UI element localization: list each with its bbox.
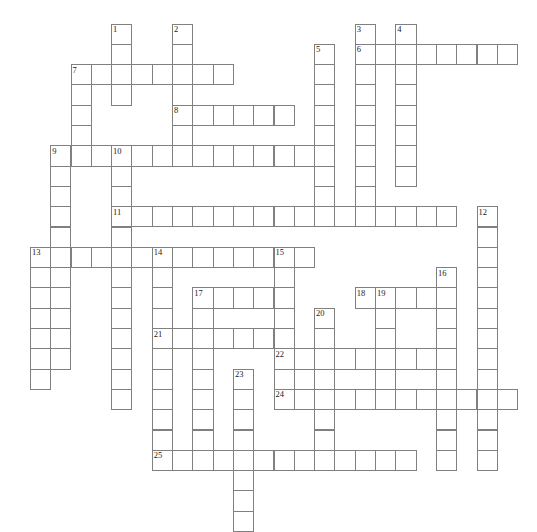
crossword-cell[interactable] [111, 389, 132, 410]
crossword-cell[interactable] [233, 206, 254, 227]
crossword-cell[interactable] [436, 450, 457, 471]
crossword-cell[interactable] [355, 389, 376, 410]
crossword-cell[interactable] [131, 145, 152, 166]
crossword-cell[interactable] [436, 328, 457, 349]
crossword-cell[interactable] [253, 105, 274, 126]
crossword-cell[interactable] [111, 166, 132, 187]
crossword-cell[interactable] [375, 44, 396, 65]
crossword-cell[interactable] [477, 348, 498, 369]
crossword-cell[interactable] [172, 84, 193, 105]
crossword-cell[interactable] [213, 206, 234, 227]
crossword-cell[interactable] [152, 308, 173, 329]
crossword-cell[interactable] [50, 348, 71, 369]
crossword-cell[interactable] [233, 511, 254, 532]
crossword-cell[interactable] [192, 145, 213, 166]
crossword-cell[interactable] [314, 64, 335, 85]
crossword-cell[interactable] [314, 348, 335, 369]
crossword-cell[interactable] [50, 247, 71, 268]
crossword-cell[interactable] [355, 450, 376, 471]
crossword-cell[interactable] [111, 247, 132, 268]
crossword-cell[interactable] [172, 328, 193, 349]
crossword-cell[interactable] [416, 44, 437, 65]
crossword-cell[interactable] [274, 206, 295, 227]
crossword-cell[interactable] [477, 247, 498, 268]
crossword-cell[interactable] [152, 328, 173, 349]
crossword-cell[interactable] [355, 166, 376, 187]
crossword-cell[interactable] [274, 247, 295, 268]
crossword-cell[interactable] [233, 247, 254, 268]
crossword-cell[interactable] [172, 64, 193, 85]
crossword-cell[interactable] [477, 287, 498, 308]
crossword-cell[interactable] [274, 328, 295, 349]
crossword-cell[interactable] [172, 24, 193, 45]
crossword-cell[interactable] [395, 287, 416, 308]
crossword-cell[interactable] [172, 450, 193, 471]
crossword-cell[interactable] [50, 186, 71, 207]
crossword-cell[interactable] [395, 24, 416, 45]
crossword-cell[interactable] [355, 24, 376, 45]
crossword-cell[interactable] [375, 369, 396, 390]
crossword-cell[interactable] [436, 389, 457, 410]
crossword-cell[interactable] [253, 247, 274, 268]
crossword-cell[interactable] [131, 206, 152, 227]
crossword-cell[interactable] [294, 247, 315, 268]
crossword-cell[interactable] [71, 105, 92, 126]
crossword-cell[interactable] [497, 389, 518, 410]
crossword-cell[interactable] [111, 24, 132, 45]
crossword-cell[interactable] [395, 450, 416, 471]
crossword-cell[interactable] [91, 247, 112, 268]
crossword-cell[interactable] [233, 409, 254, 430]
crossword-cell[interactable] [111, 267, 132, 288]
crossword-cell[interactable] [456, 44, 477, 65]
crossword-cell[interactable] [192, 64, 213, 85]
crossword-cell[interactable] [253, 328, 274, 349]
crossword-cell[interactable] [253, 450, 274, 471]
crossword-cell[interactable] [111, 64, 132, 85]
crossword-cell[interactable] [274, 369, 295, 390]
crossword-cell[interactable] [314, 105, 335, 126]
crossword-cell[interactable] [314, 206, 335, 227]
crossword-cell[interactable] [253, 287, 274, 308]
crossword-cell[interactable] [477, 308, 498, 329]
crossword-cell[interactable] [314, 328, 335, 349]
crossword-cell[interactable] [395, 145, 416, 166]
crossword-cell[interactable] [111, 227, 132, 248]
crossword-cell[interactable] [172, 44, 193, 65]
crossword-cell[interactable] [131, 247, 152, 268]
crossword-cell[interactable] [213, 64, 234, 85]
crossword-cell[interactable] [233, 369, 254, 390]
crossword-cell[interactable] [192, 389, 213, 410]
crossword-cell[interactable] [395, 348, 416, 369]
crossword-cell[interactable] [314, 450, 335, 471]
crossword-cell[interactable] [233, 145, 254, 166]
crossword-cell[interactable] [152, 145, 173, 166]
crossword-cell[interactable] [192, 206, 213, 227]
crossword-cell[interactable] [192, 369, 213, 390]
crossword-cell[interactable] [436, 206, 457, 227]
crossword-cell[interactable] [213, 105, 234, 126]
crossword-cell[interactable] [233, 430, 254, 451]
crossword-cell[interactable] [416, 348, 437, 369]
crossword-cell[interactable] [71, 84, 92, 105]
crossword-cell[interactable] [152, 409, 173, 430]
crossword-cell[interactable] [71, 125, 92, 146]
crossword-cell[interactable] [111, 369, 132, 390]
crossword-cell[interactable] [152, 64, 173, 85]
crossword-cell[interactable] [50, 267, 71, 288]
crossword-cell[interactable] [30, 348, 51, 369]
crossword-cell[interactable] [477, 44, 498, 65]
crossword-cell[interactable] [233, 328, 254, 349]
crossword-cell[interactable] [152, 450, 173, 471]
crossword-cell[interactable] [233, 490, 254, 511]
crossword-cell[interactable] [375, 389, 396, 410]
crossword-cell[interactable] [395, 105, 416, 126]
crossword-cell[interactable] [233, 389, 254, 410]
crossword-cell[interactable] [111, 84, 132, 105]
crossword-cell[interactable] [395, 389, 416, 410]
crossword-cell[interactable] [334, 206, 355, 227]
crossword-cell[interactable] [152, 247, 173, 268]
crossword-cell[interactable] [30, 369, 51, 390]
crossword-cell[interactable] [314, 84, 335, 105]
crossword-cell[interactable] [355, 64, 376, 85]
